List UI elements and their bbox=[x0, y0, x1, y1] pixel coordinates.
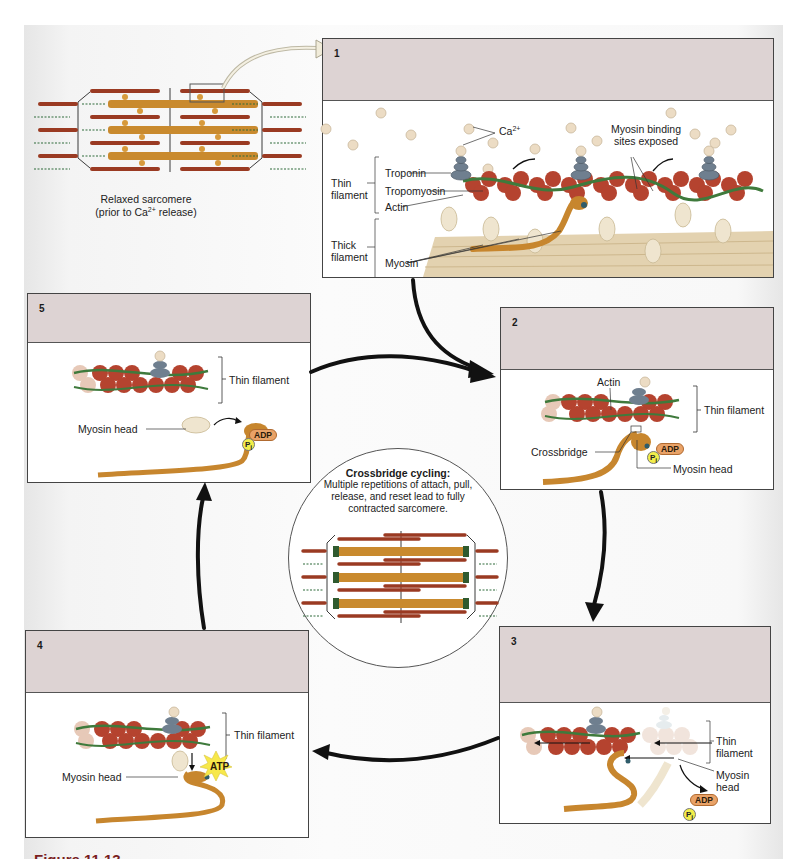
arrowhead-4-to-5-icon bbox=[196, 482, 212, 501]
arrowhead-5-to-2-icon bbox=[470, 362, 496, 383]
arrow-3-to-4 bbox=[322, 738, 498, 760]
figure-caption: Figure 11.13 bbox=[34, 851, 121, 859]
arrowhead-3-to-4-icon bbox=[312, 744, 330, 760]
arrow-4-to-5 bbox=[198, 498, 204, 628]
arrowhead-2-to-3-icon bbox=[585, 602, 604, 622]
arrow-2-to-3 bbox=[594, 492, 605, 605]
cycle-arrows bbox=[0, 0, 799, 859]
arrow-1-to-2 bbox=[413, 280, 476, 368]
